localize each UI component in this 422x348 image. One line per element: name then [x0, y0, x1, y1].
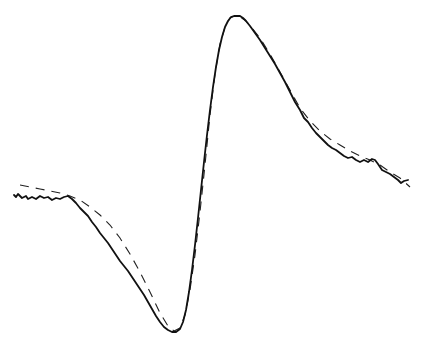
spectrum-plot — [0, 0, 422, 348]
plot-background — [0, 0, 422, 348]
